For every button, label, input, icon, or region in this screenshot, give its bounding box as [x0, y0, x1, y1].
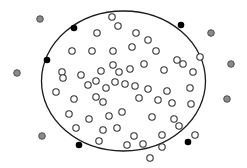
inner-point [188, 101, 194, 107]
inner-point [116, 69, 122, 75]
inner-point [71, 96, 77, 102]
inner-point [89, 48, 95, 54]
inner-point [93, 94, 99, 100]
inner-point [169, 100, 175, 106]
inner-point [176, 123, 182, 129]
inner-point [69, 48, 75, 54]
inner-point [180, 61, 186, 67]
inner-point [112, 79, 118, 85]
inner-point [60, 75, 66, 81]
outer-point [224, 96, 231, 103]
inner-point [192, 132, 198, 138]
boundary-point [71, 25, 78, 32]
boundary-point [178, 22, 185, 29]
inner-point [190, 69, 196, 75]
inner-point [59, 69, 65, 75]
inner-point [127, 66, 133, 72]
outer-point [14, 70, 21, 77]
inner-point [133, 30, 139, 36]
inner-point [86, 116, 92, 122]
inner-point [129, 44, 135, 50]
inner-point [106, 113, 112, 119]
inner-point [161, 67, 167, 73]
inner-point [100, 99, 106, 105]
inner-point [85, 82, 91, 88]
inner-point [174, 57, 180, 63]
inner-point [109, 14, 115, 20]
inner-point [132, 83, 138, 89]
inner-point [115, 23, 121, 29]
inner-point [171, 116, 177, 122]
inner-point [94, 30, 100, 36]
inner-point [122, 81, 128, 87]
boundary-point [44, 57, 51, 64]
inner-point [110, 62, 116, 68]
inner-point [93, 78, 99, 84]
inner-point [110, 48, 116, 54]
inner-point [96, 138, 102, 144]
inner-point [141, 61, 147, 67]
inner-point [149, 114, 155, 120]
inner-point [73, 125, 79, 131]
inner-point [155, 97, 161, 103]
inner-point [153, 48, 159, 54]
outer-point [39, 133, 46, 140]
inner-point [159, 144, 165, 150]
inner-point [53, 89, 59, 95]
inner-point [124, 142, 130, 148]
outer-point [228, 61, 235, 68]
inner-point [159, 132, 165, 138]
inner-point [197, 54, 203, 60]
boundary-point [76, 142, 83, 149]
inner-point [164, 88, 170, 94]
inner-point [140, 141, 146, 147]
inner-point [136, 95, 142, 101]
inner-point [98, 68, 104, 74]
enclosing-ellipse-diagram [0, 0, 247, 168]
inner-point [145, 86, 151, 92]
inner-point [103, 85, 109, 91]
inner-point [114, 125, 120, 131]
outer-point [37, 16, 44, 23]
inner-point [145, 37, 151, 43]
inner-point [78, 72, 84, 78]
inner-point [119, 109, 125, 115]
inner-point [100, 127, 106, 133]
outer-point [208, 30, 215, 37]
inner-point [147, 155, 153, 161]
inner-point [131, 133, 137, 139]
inner-point [187, 85, 193, 91]
boundary-point [185, 139, 192, 146]
inner-point [66, 111, 72, 117]
